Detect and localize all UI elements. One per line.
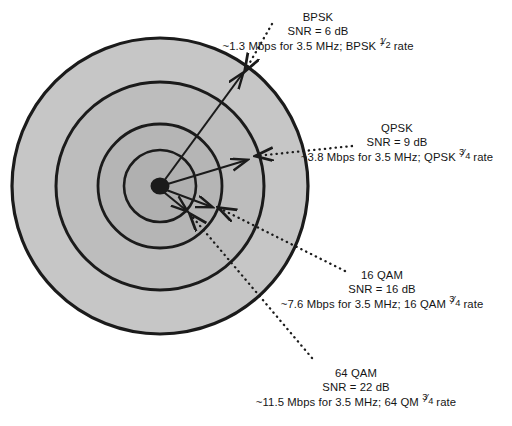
callout-qpsk-rate-suffix: rate	[470, 151, 493, 163]
callout-bpsk: BPSK SNR = 6 dB ~1.3 Mbps for 3.5 MHz; B…	[202, 10, 434, 54]
callout-16qam-title: 16 QAM	[262, 268, 502, 282]
diagram-canvas: BPSK SNR = 6 dB ~1.3 Mbps for 3.5 MHz; B…	[0, 0, 512, 426]
callout-qpsk-title: QPSK	[285, 121, 509, 135]
callout-16qam-rate-suffix: rate	[460, 298, 483, 310]
callout-16qam-rate-prefix: ~7.6 Mbps for 3.5 MHz; 16 QAM	[281, 298, 449, 310]
callout-bpsk-rate: ~1.3 Mbps for 3.5 MHz; BPSK 1⁄2 rate	[202, 38, 434, 53]
callout-64qam-snr: SNR = 22 dB	[234, 380, 478, 394]
callout-64qam-rate: ~11.5 Mbps for 3.5 MHz; 64 QM 3⁄4 rate	[234, 394, 478, 409]
callout-64qam-rate-suffix: rate	[433, 396, 456, 408]
callout-qpsk-rate: ~3.8 Mbps for 3.5 MHz; QPSK 3⁄4 rate	[285, 149, 509, 164]
callout-bpsk-rate-suffix: rate	[390, 40, 413, 52]
callout-64qam-title: 64 QAM	[234, 366, 478, 380]
callout-bpsk-rate-prefix: ~1.3 Mbps for 3.5 MHz; BPSK	[222, 40, 379, 52]
callout-16qam-snr: SNR = 16 dB	[262, 282, 502, 296]
callout-64qam: 64 QAM SNR = 22 dB ~11.5 Mbps for 3.5 MH…	[234, 366, 478, 410]
callout-bpsk-fraction: 1⁄2	[379, 38, 390, 50]
callout-qpsk-fraction-denominator: 4	[465, 152, 470, 161]
callout-16qam-fraction-denominator: 4	[455, 299, 460, 308]
callout-64qam-rate-prefix: ~11.5 Mbps for 3.5 MHz; 64 QM	[256, 396, 422, 408]
callout-qpsk-snr: SNR = 9 dB	[285, 135, 509, 149]
callout-bpsk-fraction-denominator: 2	[386, 41, 391, 50]
callout-64qam-fraction-denominator: 4	[428, 397, 433, 406]
coverage-rings-diagram	[0, 0, 512, 426]
callout-16qam-fraction: 3⁄4	[449, 296, 460, 308]
callout-16qam: 16 QAM SNR = 16 dB ~7.6 Mbps for 3.5 MHz…	[262, 268, 502, 312]
callout-bpsk-title: BPSK	[202, 10, 434, 24]
callout-qpsk: QPSK SNR = 9 dB ~3.8 Mbps for 3.5 MHz; Q…	[285, 121, 509, 165]
callout-64qam-fraction: 3⁄4	[422, 394, 433, 406]
callout-bpsk-snr: SNR = 6 dB	[202, 24, 434, 38]
callout-16qam-rate: ~7.6 Mbps for 3.5 MHz; 16 QAM 3⁄4 rate	[262, 296, 502, 311]
base-station-hub-icon	[151, 177, 170, 194]
callout-qpsk-fraction: 3⁄4	[459, 149, 470, 161]
callout-qpsk-rate-prefix: ~3.8 Mbps for 3.5 MHz; QPSK	[301, 151, 459, 163]
